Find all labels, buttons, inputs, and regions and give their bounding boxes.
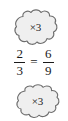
right-fraction-denominator: 9 (44, 64, 53, 78)
callout-bubble-top: ×3 (13, 9, 58, 46)
right-fraction-numerator: 6 (44, 47, 53, 61)
right-fraction: 6 9 (43, 47, 54, 77)
left-fraction-numerator: 2 (16, 47, 25, 61)
callout-bottom-label: ×3 (32, 96, 44, 107)
equation-row: 2 3 = 6 9 (0, 46, 68, 78)
left-fraction: 2 3 (14, 47, 25, 77)
callout-bubble-bottom: ×3 (15, 84, 60, 119)
equivalent-fractions-figure: ×3 2 3 = 6 9 ×3 (0, 0, 68, 121)
equals-sign: = (30, 55, 37, 69)
callout-top-label: ×3 (30, 22, 42, 33)
left-fraction-denominator: 3 (16, 64, 25, 78)
